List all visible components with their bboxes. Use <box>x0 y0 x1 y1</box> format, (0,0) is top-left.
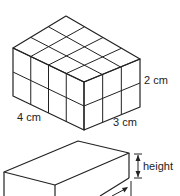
width-face-grid <box>84 67 140 123</box>
plain-cuboid <box>4 141 129 196</box>
height-label: 2 cm <box>144 74 168 86</box>
height-arrow <box>134 154 142 178</box>
diagram-canvas: 2 cm 4 cm 3 cm height <box>0 0 180 196</box>
plain-top-face <box>4 141 129 185</box>
plain-height-label: height <box>143 160 173 172</box>
length-label: 4 cm <box>17 111 41 123</box>
top-grid <box>31 27 122 75</box>
width-label: 3 cm <box>113 116 137 128</box>
